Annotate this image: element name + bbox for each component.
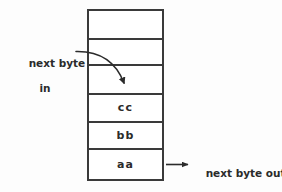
next-byte-in-line1: next byte [29,57,86,69]
stack-cell-label: aa [117,159,134,170]
stack-cell-aa: aa [89,150,162,179]
next-byte-in-label: next byte in [14,45,76,119]
stack-cell-empty-3 [89,66,162,95]
stack-cell-label: bb [116,130,134,141]
stack-cell-label: cc [118,102,133,113]
byte-stack: cc bb aa [87,9,164,181]
next-byte-out-label: next byte out is aa. [191,155,281,192]
next-byte-in-line2: in [14,82,76,94]
stack-cell-empty-1 [89,11,162,40]
stack-cell-cc: cc [89,95,162,123]
diagram-canvas: cc bb aa next byte in next byte out is [0,0,282,192]
stack-cell-empty-2 [89,40,162,67]
next-byte-out-line1: next byte out [206,167,282,179]
stack-cell-bb: bb [89,123,162,150]
